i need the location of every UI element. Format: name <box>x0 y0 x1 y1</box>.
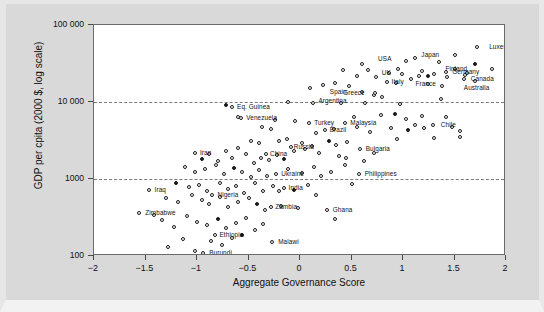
data-point <box>193 249 197 253</box>
x-tick-label: 2 <box>502 263 507 273</box>
data-point <box>307 121 311 125</box>
data-point <box>366 68 370 72</box>
x-tick-label: −2 <box>88 263 98 273</box>
data-point <box>264 152 268 156</box>
data-point <box>396 67 400 71</box>
data-point <box>236 146 240 150</box>
point-label: Malawi <box>278 239 299 245</box>
data-point <box>409 77 413 81</box>
x-tick-mark <box>196 255 197 260</box>
point-label: Burundi <box>209 250 232 255</box>
point-label: Ghana <box>333 207 353 213</box>
data-point <box>203 167 207 171</box>
data-point <box>373 91 377 95</box>
data-point <box>183 165 187 169</box>
data-point <box>244 152 248 156</box>
data-point <box>400 72 404 76</box>
x-tick-mark <box>351 255 352 260</box>
y-tick-label: 100 000 <box>0 19 84 29</box>
data-point <box>263 208 267 212</box>
x-tick-mark <box>145 255 146 260</box>
data-point <box>253 228 257 232</box>
point-label: USA <box>378 56 391 62</box>
x-tick-label: −1.5 <box>136 263 154 273</box>
point-label: Iran <box>200 149 211 155</box>
data-point <box>244 216 248 220</box>
point-label: Australia <box>464 85 490 91</box>
data-point <box>337 154 341 158</box>
data-point <box>334 143 338 147</box>
point-label: Spain <box>330 89 347 95</box>
point-label: Venezuela <box>246 115 277 121</box>
data-point <box>160 218 164 222</box>
data-point <box>406 128 410 132</box>
x-tick-mark <box>299 255 300 260</box>
data-point <box>174 181 178 185</box>
data-point <box>311 101 315 105</box>
data-point <box>185 214 189 218</box>
data-point <box>314 193 318 197</box>
data-point <box>308 86 312 90</box>
x-tick-mark <box>248 255 249 260</box>
data-point <box>355 74 359 78</box>
data-point <box>398 102 402 106</box>
x-tick-mark <box>505 255 506 260</box>
y-axis-title: GDP per cpita (2000 $, log scale) <box>33 16 44 216</box>
data-point <box>195 220 199 224</box>
data-point <box>216 217 220 221</box>
data-point <box>453 53 457 57</box>
point-label: Philippines <box>365 171 397 177</box>
data-point <box>374 75 378 79</box>
data-point <box>282 157 286 161</box>
data-point <box>343 121 347 125</box>
data-point <box>260 125 264 129</box>
data-point <box>458 135 462 139</box>
data-point <box>234 221 238 225</box>
point-label: Nigeria <box>217 192 238 198</box>
data-point <box>420 114 424 118</box>
data-point <box>393 112 397 116</box>
data-point <box>321 83 325 87</box>
data-point <box>350 182 354 186</box>
data-point <box>257 168 261 172</box>
data-point <box>200 157 204 161</box>
x-tick-label: −1 <box>191 263 201 273</box>
data-point <box>257 141 261 145</box>
data-point <box>439 97 443 101</box>
data-point <box>176 200 180 204</box>
data-point <box>137 211 141 215</box>
gridline-10000 <box>94 102 504 103</box>
data-point <box>360 62 364 66</box>
data-point <box>432 136 436 140</box>
data-point <box>323 128 327 132</box>
data-point <box>205 189 209 193</box>
data-point <box>357 172 361 176</box>
data-point <box>490 67 494 71</box>
x-tick-mark <box>93 255 94 260</box>
data-point <box>344 156 348 160</box>
data-point <box>265 174 269 178</box>
data-point <box>271 184 275 188</box>
data-point <box>187 185 191 189</box>
x-tick-label: 0.5 <box>344 263 357 273</box>
data-point <box>253 181 257 185</box>
data-point <box>289 145 293 149</box>
data-point <box>343 163 347 167</box>
data-point <box>166 245 170 249</box>
y-tick-label: 1000 <box>0 173 84 183</box>
point-label: Italy <box>392 79 404 85</box>
data-point <box>222 172 226 176</box>
data-point <box>282 186 286 190</box>
data-point <box>224 103 228 107</box>
data-point <box>395 137 399 141</box>
data-point <box>249 139 253 143</box>
data-point <box>247 196 251 200</box>
data-point <box>426 74 430 78</box>
point-label: Russia <box>294 144 314 150</box>
data-point <box>385 80 389 84</box>
data-point <box>200 198 204 202</box>
data-point <box>270 240 274 244</box>
data-point <box>277 139 281 143</box>
y-tick-label: 100 <box>0 250 84 260</box>
data-point <box>445 75 449 79</box>
